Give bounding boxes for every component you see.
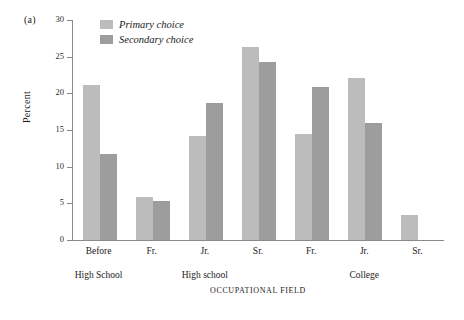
- x-axis-line: [72, 240, 444, 241]
- bar-secondary-choice: [100, 154, 117, 240]
- bar-primary-choice: [189, 136, 206, 240]
- x-axis-tick-label: Fr.: [147, 246, 157, 256]
- y-axis-tick-label: 5: [60, 197, 64, 207]
- bar-primary-choice: [348, 78, 365, 240]
- bar-group: [401, 20, 435, 240]
- bar-group: [189, 20, 223, 240]
- x-axis-title: OCCUPATIONAL FIELD: [210, 286, 306, 295]
- bar-group: [348, 20, 382, 240]
- x-axis-tick-label: Before: [86, 246, 112, 256]
- x-axis-group-label: College: [350, 270, 380, 280]
- bar-group: [83, 20, 117, 240]
- x-axis-tick-label: Sr.: [253, 246, 263, 256]
- bar-secondary-choice: [312, 87, 329, 240]
- plot-area: 051015202530 BeforeFr.Jr.Sr.Fr.Jr.Sr. Hi…: [72, 20, 444, 240]
- y-axis-tick-label: 0: [60, 234, 64, 244]
- x-axis-group-label: High School: [75, 270, 123, 280]
- y-axis-tick: 10: [67, 167, 72, 168]
- bar-primary-choice: [295, 134, 312, 240]
- y-axis-tick-label: 25: [56, 51, 65, 61]
- x-axis-group-label: High school: [182, 270, 228, 280]
- bar-primary-choice: [401, 215, 418, 240]
- x-axis-tick-label: Jr.: [200, 246, 209, 256]
- y-axis-tick: 20: [67, 93, 72, 94]
- bar-series-container: [73, 20, 444, 240]
- bar-group: [136, 20, 170, 240]
- bar-group: [242, 20, 276, 240]
- x-axis-tick-label: Sr.: [412, 246, 422, 256]
- bar-group: [295, 20, 329, 240]
- y-axis-tick-label: 15: [56, 124, 65, 134]
- x-axis-tick-label: Fr.: [306, 246, 316, 256]
- y-axis-tick-label: 30: [56, 14, 65, 24]
- y-axis-title: Percent: [21, 91, 32, 123]
- bar-secondary-choice: [206, 103, 223, 240]
- y-axis-tick-label: 20: [56, 87, 65, 97]
- figure-panel: (a) Primary choice Secondary choice Perc…: [0, 0, 464, 320]
- bar-primary-choice: [83, 85, 100, 240]
- x-axis-tick-label: Jr.: [360, 246, 369, 256]
- panel-label: (a): [24, 14, 36, 25]
- bar-primary-choice: [136, 197, 153, 240]
- bar-secondary-choice: [259, 62, 276, 240]
- bar-primary-choice: [242, 47, 259, 240]
- bar-secondary-choice: [153, 201, 170, 240]
- y-axis-tick: 0: [67, 240, 72, 241]
- y-axis-tick: 30: [67, 20, 72, 21]
- y-axis-tick: 15: [67, 130, 72, 131]
- bar-secondary-choice: [365, 123, 382, 240]
- y-axis-tick-label: 10: [56, 161, 65, 171]
- y-axis-tick: 25: [67, 57, 72, 58]
- y-axis-tick: 5: [67, 203, 72, 204]
